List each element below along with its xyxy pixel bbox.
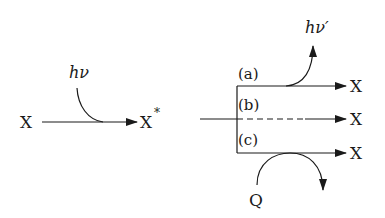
photon-absorption-curve <box>77 88 103 122</box>
quencher-label: Q <box>249 190 263 210</box>
emission-curve <box>286 46 313 86</box>
pathway-a-product: X <box>350 76 363 96</box>
quencher-curve <box>257 153 323 190</box>
pathway-c-label: (c) <box>238 131 258 149</box>
pathway-c-product: X <box>350 143 363 163</box>
pathway-b-label: (b) <box>238 96 259 114</box>
excited-state-label: X <box>140 112 153 132</box>
pathway-a-label: (a) <box>238 65 259 83</box>
deactivation-group: (a) X hν′ (b) X (c) X Q <box>200 18 363 210</box>
excited-state-superscript: * <box>154 106 160 120</box>
reactant-x-label: X <box>20 112 33 132</box>
excitation-group: X hν X * <box>20 63 160 132</box>
photon-absorbed-label: hν <box>69 63 89 82</box>
pathway-b-product: X <box>350 109 363 129</box>
photophysics-diagram: X* ===== --> X hν X * (a) X hν′ (b) X (c… <box>0 0 385 218</box>
photon-emitted-label: hν′ <box>305 18 329 37</box>
